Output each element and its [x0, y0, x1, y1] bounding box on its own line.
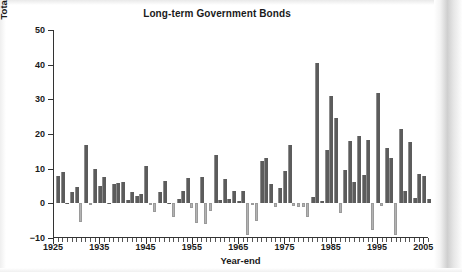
page-edge-bottom: [0, 268, 462, 272]
bar: [427, 199, 431, 203]
bar: [98, 186, 102, 203]
chart-title: Long-term Government Bonds: [0, 8, 434, 19]
bar: [126, 200, 130, 203]
bar: [93, 169, 97, 204]
bar: [56, 176, 60, 203]
bar: [357, 136, 361, 203]
y-tick: [48, 65, 53, 66]
x-tick-minor: [317, 238, 318, 242]
x-tick-minor: [122, 238, 123, 242]
chart-figure: Long-term Government Bonds Total annual …: [0, 0, 462, 272]
bar: [204, 203, 207, 224]
bar: [190, 203, 193, 208]
x-tick-minor: [113, 238, 114, 242]
x-tick-label: 1995: [367, 242, 387, 252]
bar: [302, 203, 305, 207]
bar: [329, 96, 333, 203]
x-tick-minor: [132, 238, 133, 242]
x-tick-minor: [257, 238, 258, 242]
x-tick-minor: [76, 238, 77, 242]
bar: [394, 203, 397, 234]
bar: [227, 199, 231, 203]
x-tick-minor: [215, 238, 216, 242]
x-tick-minor: [252, 238, 253, 242]
bar: [130, 192, 134, 203]
x-tick-minor: [169, 238, 170, 242]
bar: [209, 203, 212, 211]
y-tick-label: 40: [15, 60, 45, 70]
bar: [102, 177, 106, 203]
x-tick-minor: [363, 238, 364, 242]
bar: [84, 145, 88, 203]
plot-area: −1001020304050 1925193519451955196519751…: [53, 30, 428, 238]
bar: [320, 201, 324, 203]
y-tick-label: −10: [15, 233, 45, 243]
bar: [107, 203, 111, 204]
y-axis-title: Total annual returns (in percent): [0, 0, 9, 42]
y-tick-label: 10: [15, 164, 45, 174]
bar: [181, 191, 185, 203]
x-tick-label: 1925: [43, 242, 63, 252]
x-tick-minor: [173, 238, 174, 242]
x-tick-minor: [206, 238, 207, 242]
y-axis-line: [53, 30, 54, 238]
x-tick-minor: [164, 238, 165, 242]
bar: [112, 184, 116, 203]
bar: [362, 175, 366, 203]
bar: [163, 181, 167, 204]
bar: [297, 203, 300, 207]
bar: [144, 166, 148, 203]
bar: [376, 93, 380, 203]
bar: [167, 203, 171, 204]
x-tick-minor: [210, 238, 211, 242]
x-tick-minor: [359, 238, 360, 242]
x-tick-label: 1965: [228, 242, 248, 252]
y-tick-label: 20: [15, 129, 45, 139]
bar: [186, 178, 190, 203]
bar: [223, 179, 227, 203]
bar: [385, 148, 389, 203]
bar: [177, 199, 181, 203]
bar: [214, 155, 218, 203]
bar: [366, 140, 370, 203]
bar: [89, 203, 92, 205]
bar: [135, 196, 139, 203]
y-tick: [48, 203, 53, 204]
bar: [334, 118, 338, 203]
x-tick-label: 1985: [321, 242, 341, 252]
x-tick-minor: [349, 238, 350, 242]
x-tick-minor: [400, 238, 401, 242]
x-tick-minor: [261, 238, 262, 242]
bar: [139, 194, 143, 204]
y-tick-label: 50: [15, 25, 45, 35]
bar: [292, 203, 295, 205]
x-tick-minor: [224, 238, 225, 242]
bar: [417, 174, 421, 203]
x-tick-minor: [266, 238, 267, 242]
bar: [116, 183, 120, 203]
y-tick-label: 0: [15, 198, 45, 208]
x-tick-minor: [85, 238, 86, 242]
bar: [264, 158, 268, 204]
x-tick-minor: [312, 238, 313, 242]
x-tick-minor: [72, 238, 73, 242]
x-tick-minor: [396, 238, 397, 242]
x-tick-minor: [354, 238, 355, 242]
bar: [65, 203, 69, 204]
bar: [288, 145, 292, 203]
x-tick-minor: [308, 238, 309, 242]
x-tick-label: 1955: [182, 242, 202, 252]
bar: [389, 158, 393, 203]
bar: [237, 201, 241, 203]
page-edge-top: [0, 0, 462, 5]
x-tick-minor: [127, 238, 128, 242]
x-tick-minor: [159, 238, 160, 242]
x-tick-label: 2005: [413, 242, 433, 252]
bar: [195, 203, 198, 222]
bar: [422, 176, 426, 203]
bar: [153, 203, 156, 212]
y-tick-label: 30: [15, 94, 45, 104]
x-tick-minor: [271, 238, 272, 242]
bar: [241, 191, 245, 204]
bar: [339, 203, 342, 212]
